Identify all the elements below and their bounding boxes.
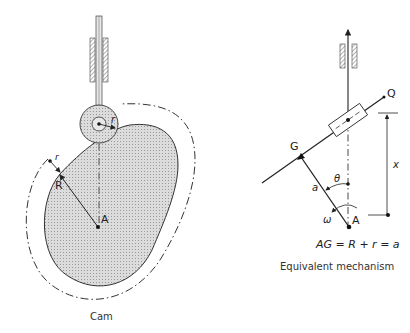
follower-guide-right [103, 38, 108, 82]
label-A-mech: A [352, 215, 360, 226]
caption-equivalent-mechanism: Equivalent mechanism [280, 262, 394, 272]
label-R: R [55, 180, 63, 191]
equation: AG = R + r = a [316, 239, 400, 250]
slider-guide-right [352, 44, 357, 68]
cam-profile [44, 124, 178, 286]
cam-drawing [26, 16, 195, 299]
equivalent-mechanism-drawing [262, 30, 398, 229]
label-offset-r: r [55, 153, 59, 162]
label-Q: Q [387, 88, 396, 99]
cam-center-point [96, 225, 100, 229]
label-a: a [312, 183, 318, 193]
label-roller-r: r [111, 115, 115, 125]
label-A-cam: A [101, 214, 109, 225]
caption-cam: Cam [90, 312, 113, 322]
label-x: x [393, 160, 399, 170]
slider-guide-left [340, 44, 345, 68]
diagram-canvas [0, 0, 410, 333]
pivot-a [347, 225, 352, 230]
label-omega: ω [323, 215, 331, 225]
label-theta: θ [334, 174, 340, 184]
follower-guide-left [90, 38, 95, 82]
link-gq [262, 97, 384, 183]
label-G: G [290, 141, 299, 152]
